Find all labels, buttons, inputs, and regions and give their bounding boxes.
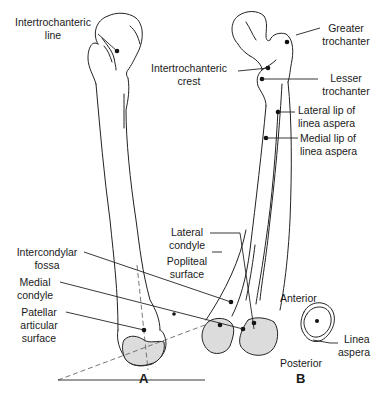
label-anterior: Anterior: [280, 292, 317, 305]
label-line-2: line: [4, 29, 102, 42]
label-lesser-trochanter: Lesser trochanter: [314, 72, 378, 98]
femur-diagram: Intertrochanteric line Intertrochanteric…: [0, 0, 379, 394]
label-line-1: Linea: [338, 333, 370, 346]
label-intertrochanteric-line: Intertrochanteric line: [4, 16, 102, 42]
label-line-1: Patellar: [14, 306, 64, 319]
label-line-1: Lesser: [314, 72, 378, 85]
label-line-2: articular: [14, 319, 64, 332]
label-intertrochanteric-crest: Intertrochanteric crest: [140, 62, 238, 88]
label-line-1: Greater: [314, 22, 378, 35]
label-line-2: condyle: [162, 239, 212, 252]
label-line-1: Intertrochanteric: [140, 62, 238, 75]
label-medial-condyle: Medial condyle: [12, 276, 58, 302]
label-line-2: linea aspera: [300, 145, 357, 158]
label-line-2: surface: [160, 268, 214, 281]
label-medial-lip-linea-aspera: Medial lip of linea aspera: [300, 132, 357, 158]
label-lateral-lip-linea-aspera: Lateral lip of linea aspera: [298, 104, 355, 130]
label-posterior: Posterior: [280, 357, 322, 370]
femur-cross-section: [301, 303, 338, 343]
label-line-2: aspera: [338, 346, 370, 359]
label-line-2: condyle: [12, 289, 58, 302]
label-line-1: Medial lip of: [300, 132, 357, 145]
label-intercondylar-fossa: Intercondylar fossa: [10, 246, 84, 272]
label-linea-aspera: Linea aspera: [338, 333, 370, 359]
label-line-2: trochanter: [314, 35, 378, 48]
label-line-1: Intertrochanteric: [4, 16, 102, 29]
label-line-2: fossa: [10, 259, 84, 272]
label-patellar-articular-surface: Patellar articular surface: [14, 306, 64, 345]
label-line-1: Lateral: [162, 226, 212, 239]
label-line-2: crest: [140, 75, 238, 88]
label-line-2: linea aspera: [298, 117, 355, 130]
label-line-1: Popliteal: [160, 255, 214, 268]
label-line-3: surface: [14, 332, 64, 345]
panel-letter-b: B: [296, 371, 305, 386]
label-line-1: Lateral lip of: [298, 104, 355, 117]
label-popliteal-surface: Popliteal surface: [160, 255, 214, 281]
label-greater-trochanter: Greater trochanter: [314, 22, 378, 48]
label-lateral-condyle: Lateral condyle: [162, 226, 212, 252]
panel-letter-a: A: [139, 371, 148, 386]
label-line-1: Medial: [12, 276, 58, 289]
label-line-2: trochanter: [314, 85, 378, 98]
label-line-1: Intercondylar: [10, 246, 84, 259]
